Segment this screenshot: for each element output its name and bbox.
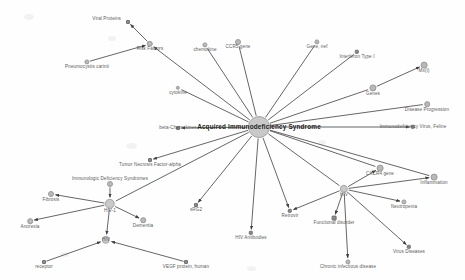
graph-node-label-ids: Immunologic Deficiency Syndromes (72, 177, 148, 182)
graph-node-label-fiv: Immunodeficiency Virus, Feline (380, 125, 447, 130)
scan-grain (24, 14, 34, 20)
graph-node-label-beta_chemokines: beta-Chemokines (159, 126, 197, 131)
graph-node-label-cxcr4_gene: CXCR4 gene (366, 172, 394, 177)
graph-edge (154, 47, 250, 120)
graph-node-label-ccr5_gene: CCR5 gene (226, 45, 251, 50)
graph-edge (349, 178, 429, 189)
graph-node-label-anorexia: Anorexia (21, 225, 40, 230)
graph-edge (130, 24, 147, 41)
graph-edge (55, 195, 104, 203)
graph-node-label-retrovir: Retrovir (282, 214, 299, 219)
scan-grain (108, 36, 116, 41)
graph-node-label-hiv_antibodies: HIV Antibodies (235, 236, 267, 241)
graph-edges (34, 24, 429, 261)
graph-node-label-pneumocystis: Pneumocystis carinii (65, 65, 109, 70)
graph-edge (111, 242, 183, 262)
graph-edge (107, 210, 110, 235)
graph-node-label-gene_nef: Gene, nef (306, 45, 327, 50)
graph-node-label-cytokine: cytokine (169, 91, 187, 96)
graph-edge (349, 190, 400, 201)
graph-edge (251, 138, 258, 229)
graph-node-label-neutropenia: Neutropenia (391, 205, 417, 210)
graph-edge (268, 54, 354, 120)
graph-edge (153, 130, 248, 159)
graph-node-label-chemokine: chemokine (193, 48, 216, 53)
graph-node-label-hiv1: HIV-1 (104, 209, 116, 214)
graph-node-label-mxi: Mx(I) (419, 69, 430, 74)
graph-edge (181, 90, 248, 122)
scan-grain (318, 140, 326, 145)
graph-edge (377, 67, 420, 86)
graph-edge (239, 46, 256, 115)
graph-node-label-func_disorder: Functional disorder (314, 221, 355, 226)
graph-edge (344, 194, 348, 258)
graph-edge (270, 130, 429, 175)
graph-node-label-tnf_alpha: Tumor Necrosis Factor-alpha (119, 163, 181, 168)
edge-layer (0, 0, 465, 280)
network-graph-canvas: Acquired Immunodeficiency SyndromeViral … (0, 0, 465, 280)
graph-edge (115, 206, 139, 218)
graph-node-label-virus_diseases: Virus Diseases (393, 250, 425, 255)
graph-edge (268, 134, 339, 186)
graph-edge (293, 191, 339, 210)
graph-node-label-interferon: Interferon Type I (339, 55, 374, 60)
graph-edge (270, 131, 375, 167)
graph-node-ids[interactable] (107, 181, 113, 187)
graph-node-label-inflammation: Inflammation (420, 181, 448, 186)
graph-node-viral_proteins[interactable] (126, 20, 130, 24)
graph-node-label-risk_factors: Risk Factors (137, 47, 164, 52)
graph-node-label-genes: Genes (366, 92, 380, 97)
graph-node-label-hiv_hub: HIV (340, 193, 348, 198)
graph-node-label-dementia: Dementia (133, 224, 153, 229)
scan-grain (247, 266, 256, 271)
graph-node-label-disease_prog: Disease Progression (405, 108, 449, 113)
graph-node-label-sirg2: sRG2 (190, 208, 202, 213)
graph-edge (207, 48, 252, 117)
graph-node-label-hiv: HIV (102, 238, 110, 243)
graph-edge (348, 192, 407, 244)
graph-node-label-fibrosis: Fibrosis (43, 198, 60, 203)
graph-node-label-chronic_inf: Chronic infectious disease (320, 265, 376, 270)
graph-node-label-aids: Acquired Immunodeficiency Syndrome (197, 124, 321, 130)
graph-edge (46, 242, 100, 261)
graph-edge (198, 136, 252, 202)
scan-grain (126, 143, 137, 149)
graph-node-label-receptor: receptor (35, 265, 53, 270)
graph-node-label-vegf: VEGF protein, human (163, 265, 209, 270)
graph-edge (265, 45, 314, 117)
graph-edge (270, 90, 368, 124)
graph-edge (34, 205, 104, 220)
graph-node-label-viral_proteins: Viral Proteins (92, 17, 121, 22)
graph-edge (263, 138, 289, 208)
scan-grain (60, 252, 69, 257)
